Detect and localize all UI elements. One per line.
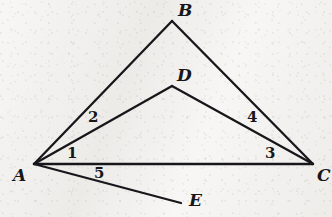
segment-DC bbox=[172, 86, 313, 164]
segment-AD bbox=[34, 86, 172, 164]
segment-BC bbox=[172, 21, 313, 164]
segment-AB bbox=[34, 21, 172, 164]
vertex-label-D: D bbox=[177, 67, 192, 84]
angle-label-2: 2 bbox=[88, 110, 98, 125]
vertex-label-A: A bbox=[13, 167, 26, 184]
segment-group bbox=[34, 21, 313, 203]
angle-label-1: 1 bbox=[67, 146, 77, 161]
vertex-label-E: E bbox=[189, 192, 202, 209]
angle-label-4: 4 bbox=[247, 110, 257, 125]
vertex-label-C: C bbox=[317, 167, 331, 184]
diagram-canvas bbox=[0, 0, 332, 217]
segment-AE bbox=[34, 164, 181, 203]
vertex-label-B: B bbox=[178, 2, 193, 19]
angle-label-5: 5 bbox=[94, 166, 104, 181]
angle-label-3: 3 bbox=[265, 146, 275, 161]
geometry-figure: A B C D E 1 2 3 4 5 bbox=[0, 0, 332, 217]
